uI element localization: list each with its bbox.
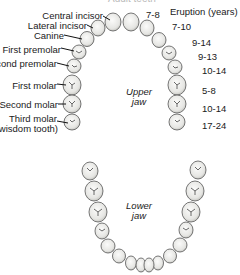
label-first-molar: First molar [12, 81, 57, 91]
eruption-central-incisor: 7-8 [146, 10, 160, 20]
upper-jaw-label: Upper jaw [124, 87, 154, 107]
eruption-canine: 9-14 [192, 38, 211, 48]
label-first-premolar: First premolar [2, 45, 61, 55]
eruption-header: Eruption (years) [170, 7, 238, 17]
label-wisdom-tooth: (wisdom tooth) [0, 124, 58, 134]
label-second-premolar: Second premolar [0, 59, 57, 69]
eruption-second-molar: 10-14 [202, 104, 226, 114]
label-canine: Canine [34, 31, 64, 41]
eruption-first-molar: 5-8 [202, 86, 216, 96]
eruption-lateral-incisor: 7-10 [172, 22, 191, 32]
lower-jaw-label: Lower jaw [124, 201, 154, 221]
eruption-third-molar: 17-24 [202, 121, 226, 131]
label-second-molar: Second molar [0, 100, 58, 110]
eruption-first-premolar: 9-13 [198, 52, 217, 62]
eruption-second-premolar: 10-14 [202, 66, 226, 76]
